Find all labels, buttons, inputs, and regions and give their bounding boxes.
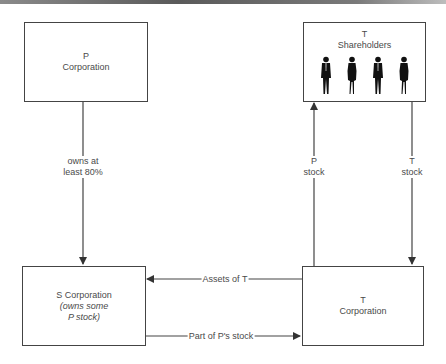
p-corp-line1: P: [83, 51, 89, 62]
t-shareholders-line2: Shareholders: [338, 40, 392, 51]
owns-at-least-label: owns at least 80%: [62, 156, 104, 178]
woman-silhouette-icon: [346, 56, 358, 96]
s-corp-line3: P stock): [68, 312, 100, 323]
t-shareholders-line1: T: [362, 29, 368, 40]
p-stock-label: P stock: [302, 156, 325, 178]
part-of-p-stock-label: Part of P's stock: [188, 331, 255, 342]
assets-of-t-label: Assets of T: [202, 274, 249, 285]
t-corp-line2: Corporation: [339, 306, 386, 317]
man-silhouette-icon: [372, 56, 384, 96]
woman-silhouette-icon: [398, 56, 410, 96]
t-corporation-box: T Corporation: [302, 266, 424, 346]
man-silhouette-icon: [320, 56, 332, 96]
s-corp-line1: S Corporation: [56, 290, 112, 301]
p-corporation-box: P Corporation: [24, 22, 148, 102]
s-corporation-box: S Corporation (owns some P stock): [22, 266, 146, 346]
t-shareholders-box: T Shareholders: [303, 22, 426, 102]
shareholder-figures: [320, 56, 410, 96]
t-corp-line1: T: [360, 295, 366, 306]
t-stock-label: T stock: [400, 156, 423, 178]
p-corp-line2: Corporation: [62, 62, 109, 73]
s-corp-line2: (owns some: [60, 301, 109, 312]
